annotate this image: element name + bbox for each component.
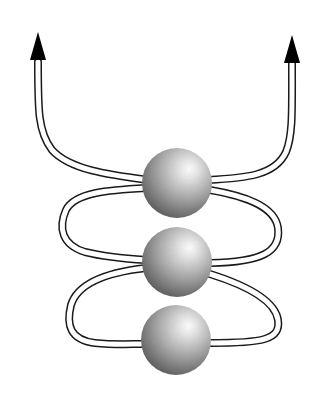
loop-left-middle-bottom — [69, 268, 146, 344]
sphere-top — [142, 148, 212, 218]
diagram-svg — [0, 0, 320, 400]
loop-left-top-middle — [62, 188, 146, 260]
arrow-up-left-icon — [30, 32, 46, 60]
sphere-group — [141, 148, 212, 375]
loop-right-top-middle — [210, 190, 278, 263]
loop-right-middle-bottom — [210, 274, 278, 343]
tube-left-rise — [38, 62, 148, 180]
diagram-canvas — [0, 0, 320, 400]
arrow-up-right-icon — [284, 35, 300, 63]
arrow-group — [30, 32, 300, 63]
sphere-bottom — [141, 305, 211, 375]
sphere-middle — [142, 227, 212, 297]
tube-right-rise — [208, 64, 292, 180]
